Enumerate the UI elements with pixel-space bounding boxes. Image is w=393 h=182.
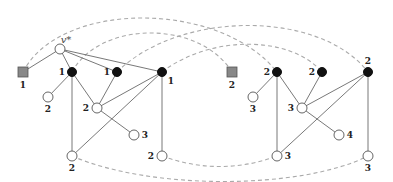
black-node	[158, 68, 167, 77]
dashed-arc	[72, 33, 232, 72]
node-label: 2	[264, 67, 270, 77]
node-label: 4	[347, 130, 353, 140]
white-node	[363, 151, 373, 161]
white-node	[92, 103, 102, 113]
node-label: 2	[69, 163, 75, 173]
black-node	[273, 68, 282, 77]
node-label: 2	[309, 67, 315, 77]
white-node	[129, 130, 139, 140]
graph-edge	[23, 49, 60, 72]
node-label: 2	[365, 56, 371, 66]
black-node	[68, 68, 77, 77]
white-node	[67, 151, 77, 161]
white-node	[297, 103, 307, 113]
graph-edge	[72, 72, 162, 156]
graph-edge	[302, 108, 339, 135]
node-label: 3	[285, 151, 291, 161]
node-label: 1	[168, 76, 174, 86]
node-label: 1	[20, 80, 26, 90]
square-node	[227, 67, 237, 77]
graph-edge	[97, 108, 134, 135]
node-label: 2	[83, 103, 89, 113]
node-label: v*	[61, 34, 72, 45]
white-node	[43, 92, 53, 102]
node-label: 2	[229, 80, 235, 90]
white-node	[55, 44, 65, 54]
node-label: 3	[142, 130, 148, 140]
node-label: 3	[288, 103, 294, 113]
white-node	[334, 130, 344, 140]
dashed-arc	[72, 156, 368, 182]
white-node	[272, 151, 282, 161]
dashed-arc	[117, 26, 368, 73]
black-node	[113, 68, 122, 77]
white-node	[157, 151, 167, 161]
node-label: 2	[148, 151, 154, 161]
graph-diagram: 1v*11122322222233433	[0, 0, 393, 182]
black-node	[318, 68, 327, 77]
dashed-arc	[162, 44, 322, 72]
dashed-arc	[162, 156, 277, 167]
graph-nodes	[18, 44, 373, 161]
white-node	[248, 92, 258, 102]
node-label: 3	[250, 104, 256, 114]
square-node	[18, 67, 28, 77]
node-label: 1	[59, 67, 65, 77]
node-label: 3	[365, 163, 371, 173]
node-label: 1	[104, 67, 110, 77]
graph-edges	[23, 49, 368, 156]
black-node	[364, 68, 373, 77]
node-label: 2	[45, 104, 51, 114]
graph-edge	[277, 72, 368, 156]
